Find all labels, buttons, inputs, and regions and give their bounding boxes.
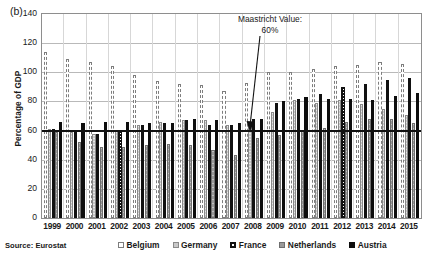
- bar-netherlands-2014: [390, 119, 393, 218]
- legend-label: Netherlands: [288, 240, 336, 250]
- bar-group-2011: [310, 14, 332, 218]
- maastricht-reference-line: [42, 130, 421, 132]
- x-tick-label-2015: 2015: [398, 221, 420, 231]
- bar-france-2013: [364, 84, 367, 218]
- austria-swatch-icon: [349, 242, 355, 248]
- chart-legend: BelgiumGermanyFranceNetherlandsAustria: [118, 240, 387, 250]
- x-tick-label-2010: 2010: [286, 221, 308, 231]
- bar-netherlands-2004: [167, 144, 170, 218]
- x-tick-label-1999: 1999: [41, 221, 63, 231]
- legend-item-belgium[interactable]: Belgium: [118, 240, 160, 250]
- x-axis-tick-labels: 1999200020012002200320042005200620072008…: [41, 221, 420, 231]
- chart-figure: (b) Percentage of GDP 140120100806040200…: [0, 0, 432, 261]
- bar-netherlands-1999: [55, 132, 58, 218]
- bar-austria-2010: [304, 97, 307, 218]
- bar-france-2001: [96, 134, 99, 219]
- x-tick-label-2007: 2007: [219, 221, 241, 231]
- bar-austria-2007: [238, 123, 241, 218]
- bar-austria-2008: [260, 119, 263, 218]
- bar-netherlands-2008: [256, 138, 259, 218]
- x-tick-label-2013: 2013: [353, 221, 375, 231]
- bar-germany-2013: [360, 104, 363, 218]
- bar-netherlands-2011: [323, 128, 326, 218]
- bar-france-2000: [74, 132, 77, 218]
- bar-group-2002: [109, 14, 131, 218]
- bar-austria-2011: [327, 99, 330, 218]
- bar-france-2012: [341, 87, 344, 218]
- bar-netherlands-2001: [100, 147, 103, 218]
- bar-france-1999: [52, 129, 55, 218]
- bar-germany-2002: [115, 131, 118, 218]
- y-tick-label: 20: [15, 184, 37, 193]
- bar-belgium-2015: [401, 64, 404, 218]
- bar-austria-2009: [282, 101, 285, 218]
- legend-item-france[interactable]: France: [230, 240, 266, 250]
- bar-belgium-2007: [222, 91, 225, 218]
- x-tick-label-2005: 2005: [175, 221, 197, 231]
- bar-germany-1999: [48, 129, 51, 218]
- bar-germany-2014: [382, 109, 385, 218]
- bar-belgium-2010: [289, 72, 292, 218]
- bar-austria-2012: [349, 99, 352, 218]
- annotation-arrow-icon: [240, 36, 280, 132]
- bar-austria-2002: [126, 122, 129, 218]
- bar-austria-2001: [104, 122, 107, 218]
- bar-france-2015: [408, 78, 411, 218]
- annotation-line-1: Maastricht Value:: [238, 14, 302, 24]
- bar-group-2004: [153, 14, 175, 218]
- bar-austria-2000: [81, 123, 84, 218]
- bar-germany-2008: [248, 123, 251, 218]
- bar-group-2003: [131, 14, 153, 218]
- x-tick-label-2006: 2006: [197, 221, 219, 231]
- x-tick-label-2008: 2008: [242, 221, 264, 231]
- bar-france-2003: [141, 125, 144, 218]
- bar-belgium-2000: [66, 59, 69, 218]
- bar-groups: [42, 14, 421, 218]
- bar-belgium-2005: [178, 84, 181, 218]
- bar-netherlands-2012: [345, 122, 348, 218]
- bar-austria-2006: [215, 120, 218, 218]
- germany-swatch-icon: [173, 242, 179, 248]
- plot-area: [41, 13, 422, 219]
- y-tick-label: 120: [15, 38, 37, 47]
- bar-austria-2003: [148, 123, 151, 218]
- bar-france-2008: [252, 119, 255, 218]
- bar-group-2012: [332, 14, 354, 218]
- bar-netherlands-2010: [301, 131, 304, 218]
- bar-austria-2013: [371, 100, 374, 218]
- bar-germany-2007: [226, 125, 229, 218]
- bar-austria-2014: [394, 96, 397, 218]
- bar-netherlands-2002: [122, 147, 125, 218]
- bar-germany-2012: [338, 100, 341, 218]
- maastricht-annotation: Maastricht Value: 60%: [214, 14, 326, 36]
- bar-germany-2005: [182, 120, 185, 218]
- bar-france-2011: [319, 94, 322, 218]
- legend-item-germany[interactable]: Germany: [173, 240, 218, 250]
- bar-austria-2005: [193, 119, 196, 218]
- legend-item-netherlands[interactable]: Netherlands: [279, 240, 336, 250]
- y-tick-label: 0: [15, 213, 37, 222]
- bar-group-1999: [42, 14, 64, 218]
- y-tick-label: 100: [15, 67, 37, 76]
- x-tick-label-2000: 2000: [63, 221, 85, 231]
- bar-group-2006: [198, 14, 220, 218]
- legend-label: Belgium: [127, 240, 160, 250]
- bar-belgium-2003: [133, 75, 136, 218]
- bar-austria-2004: [171, 123, 174, 218]
- legend-item-austria[interactable]: Austria: [349, 240, 386, 250]
- bar-netherlands-2006: [211, 150, 214, 218]
- bar-germany-2000: [70, 132, 73, 218]
- bar-group-2015: [399, 14, 421, 218]
- bar-austria-1999: [59, 122, 62, 218]
- bar-belgium-2012: [334, 66, 337, 218]
- bar-belgium-2002: [111, 66, 114, 218]
- annotation-line-2: 60%: [214, 25, 326, 36]
- bar-netherlands-2007: [234, 155, 237, 218]
- bar-france-2006: [208, 125, 211, 218]
- x-tick-label-2012: 2012: [331, 221, 353, 231]
- bar-netherlands-2003: [145, 145, 148, 218]
- bar-belgium-2014: [378, 62, 381, 218]
- bar-belgium-2013: [356, 65, 359, 218]
- bar-netherlands-2005: [189, 145, 192, 218]
- bar-belgium-1999: [44, 52, 47, 218]
